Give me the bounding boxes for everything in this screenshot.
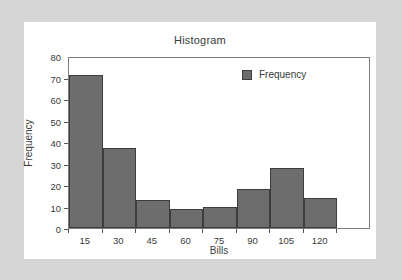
bar-75	[203, 207, 237, 229]
legend: Frequency	[242, 69, 306, 80]
y-tick-label-40: 40	[50, 138, 61, 149]
legend-swatch-frequency	[242, 70, 252, 80]
y-tick-label-60: 60	[50, 95, 61, 106]
y-tick-label-30: 30	[50, 159, 61, 170]
y-tick-label-80: 80	[50, 52, 61, 63]
bar-90	[237, 189, 271, 228]
bar-105	[270, 168, 304, 228]
chart-panel: Histogram Frequency 01020304050607080 15…	[24, 22, 376, 259]
legend-label-frequency: Frequency	[259, 69, 306, 80]
y-tick-label-10: 10	[50, 202, 61, 213]
bar-45	[136, 200, 170, 228]
x-tick-mark-4	[202, 229, 203, 233]
x-tick-mark-1	[102, 229, 103, 233]
y-axis-ticks: 01020304050607080	[24, 57, 68, 229]
x-axis-title: Bills	[68, 245, 370, 256]
bar-series	[69, 58, 369, 228]
x-tick-mark-5	[236, 229, 237, 233]
bar-15	[69, 75, 103, 228]
x-tick-mark-7	[303, 229, 304, 233]
y-tick-label-70: 70	[50, 73, 61, 84]
x-tick-mark-0	[68, 229, 69, 233]
plot-area	[68, 57, 370, 229]
x-tick-mark-3	[169, 229, 170, 233]
chart-title: Histogram	[24, 34, 376, 46]
x-tick-mark-6	[269, 229, 270, 233]
screenshot-background: Histogram Frequency 01020304050607080 15…	[0, 0, 402, 280]
x-tick-mark-2	[135, 229, 136, 233]
y-tick-label-20: 20	[50, 181, 61, 192]
y-tick-label-50: 50	[50, 116, 61, 127]
bar-30	[103, 148, 137, 228]
bar-120	[304, 198, 338, 228]
x-tick-mark-8	[336, 229, 337, 233]
bar-60	[170, 209, 204, 228]
y-tick-label-0: 0	[56, 224, 61, 235]
